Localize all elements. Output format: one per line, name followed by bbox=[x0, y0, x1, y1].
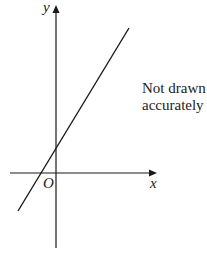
origin-label: O bbox=[43, 175, 54, 192]
y-axis-arrowhead-icon bbox=[53, 5, 60, 13]
graph-line bbox=[18, 28, 129, 211]
not-drawn-accurately-note: Not drawn accurately bbox=[142, 80, 207, 114]
coordinate-plane bbox=[0, 0, 207, 257]
note-line-1: Not drawn bbox=[142, 80, 207, 97]
note-line-2: accurately bbox=[142, 97, 207, 114]
y-axis-label: y bbox=[43, 0, 50, 16]
x-axis-label: x bbox=[150, 175, 157, 192]
